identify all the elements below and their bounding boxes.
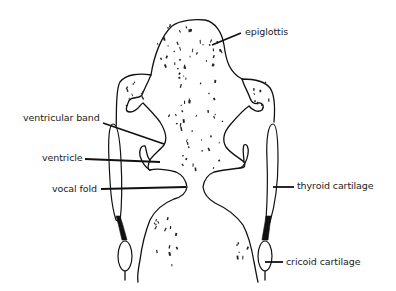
stipple-speck	[154, 226, 157, 230]
label-cricoid-cartilage: cricoid cartilage	[286, 257, 360, 267]
stipple-speck	[186, 139, 188, 142]
stipple-speck	[190, 29, 192, 32]
stipple-speck	[179, 30, 181, 33]
right-cricothyroid-membrane	[262, 216, 271, 240]
stipple-speck	[238, 242, 240, 244]
right-ventricle-outline	[240, 145, 248, 168]
stipple-speck	[181, 110, 183, 112]
stipple-speck	[213, 98, 216, 101]
stipple-speck	[157, 221, 159, 224]
stipple-speck	[182, 163, 184, 166]
stipple-speck	[177, 68, 179, 69]
stipple-speck	[237, 256, 239, 260]
stipple-speck	[254, 100, 256, 102]
stipple-speck	[179, 47, 181, 51]
left-wall-outline	[116, 74, 166, 170]
stipple-speck	[195, 167, 197, 171]
stipple-speck	[156, 250, 158, 254]
stipple-speck	[206, 60, 207, 62]
stipple-speck	[165, 55, 168, 58]
stipple-speck	[200, 40, 201, 44]
label-vocal-fold: vocal fold	[52, 184, 97, 194]
stipple-speck	[141, 96, 144, 100]
stipple-speck	[168, 245, 170, 249]
stipple-speck	[180, 127, 182, 131]
tissue-stippling	[126, 24, 270, 266]
stipple-speck	[221, 50, 223, 53]
stipple-speck	[214, 80, 216, 83]
label-epiglottis: epiglottis	[245, 27, 288, 37]
stipple-speck	[209, 44, 211, 46]
stipple-speck	[179, 59, 181, 61]
right-vocal-fold-outline	[203, 168, 258, 282]
stipple-speck	[184, 101, 185, 104]
stipple-speck	[171, 264, 172, 266]
stipple-speck	[253, 88, 254, 91]
stipple-speck	[187, 142, 189, 145]
stipple-speck	[222, 121, 224, 123]
label-thyroid-cartilage: thyroid cartilage	[297, 181, 374, 191]
stipple-speck	[192, 163, 193, 166]
left-cricothyroid-membrane	[116, 216, 127, 240]
stipple-speck	[173, 51, 175, 53]
stipple-speck	[134, 82, 135, 84]
stipple-speck	[155, 223, 157, 225]
stipple-speck	[268, 99, 269, 102]
stipple-speck	[180, 123, 182, 127]
stipple-speck	[164, 64, 167, 68]
stipple-speck	[167, 217, 169, 220]
stipple-speck	[239, 252, 240, 254]
stipple-speck	[207, 110, 209, 113]
stipple-speck	[196, 52, 198, 55]
stipple-speck	[213, 116, 215, 119]
left-vocal-fold-outline	[138, 169, 187, 282]
label-ventricle: ventricle	[42, 153, 83, 163]
stipple-speck	[167, 45, 169, 46]
stipple-speck	[154, 223, 155, 225]
stipple-speck	[157, 43, 159, 45]
right-cricoid-cartilage	[258, 241, 272, 271]
larynx-diagram	[0, 0, 396, 291]
stipple-speck	[257, 102, 258, 105]
stipple-speck	[183, 75, 184, 76]
stipple-speck	[200, 83, 202, 85]
stipple-speck	[167, 27, 169, 28]
stipple-speck	[202, 44, 204, 46]
stipple-speck	[213, 55, 215, 58]
stipple-speck	[253, 93, 255, 95]
stipple-speck	[219, 142, 220, 144]
stipple-speck	[188, 146, 190, 148]
stipple-speck	[207, 148, 210, 152]
stipple-speck	[213, 167, 215, 169]
stipple-speck	[190, 56, 191, 58]
stipple-speck	[213, 48, 214, 51]
stipple-speck	[246, 246, 249, 250]
stipple-speck	[196, 115, 198, 117]
left-thyroid-cartilage	[109, 124, 122, 222]
stipple-speck	[184, 67, 186, 70]
stipple-speck	[201, 150, 203, 151]
stipple-speck	[170, 226, 171, 229]
stipple-speck	[192, 130, 193, 132]
label-ventricular-band: ventricular band	[23, 113, 100, 123]
epiglottis-outline	[151, 20, 242, 79]
stipple-speck	[210, 39, 212, 42]
stipple-speck	[155, 219, 157, 222]
stipple-speck	[178, 72, 181, 75]
right-thyroid-cartilage	[266, 124, 278, 222]
stipple-speck	[126, 105, 128, 107]
epiglottis-leader	[212, 33, 241, 45]
stipple-speck	[180, 84, 182, 88]
stipple-speck	[218, 160, 220, 162]
stipple-speck	[201, 139, 202, 141]
stipple-speck	[188, 100, 190, 104]
stipple-speck	[182, 155, 184, 156]
stipple-speck	[175, 114, 177, 116]
stipple-speck	[174, 62, 175, 65]
stipple-speck	[192, 49, 194, 53]
stipple-speck	[213, 64, 214, 66]
stipple-speck	[164, 228, 167, 232]
stipple-speck	[208, 92, 210, 94]
stipple-speck	[176, 42, 178, 46]
stipple-speck	[183, 119, 185, 123]
